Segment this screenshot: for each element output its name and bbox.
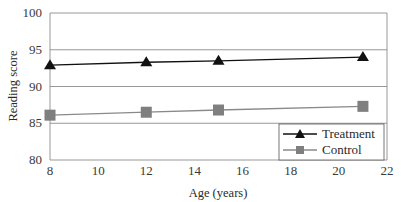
y-axis-ticks: 80859095100 — [23, 5, 43, 167]
square-marker-icon — [357, 101, 368, 112]
y-tick-label: 90 — [29, 79, 42, 94]
legend-label-control: Control — [322, 142, 362, 157]
y-tick-label: 80 — [29, 152, 42, 167]
triangle-marker-icon — [44, 59, 56, 69]
x-tick-label: 20 — [332, 163, 345, 178]
x-tick-label: 14 — [188, 163, 202, 178]
y-axis-label: Reading score — [6, 50, 20, 122]
triangle-marker-icon — [140, 56, 152, 66]
x-tick-label: 18 — [284, 163, 297, 178]
x-tick-label: 8 — [47, 163, 54, 178]
y-tick-label: 95 — [29, 42, 42, 57]
square-marker-icon — [296, 146, 304, 154]
series-line-treatment — [50, 57, 363, 65]
x-axis-label: Age (years) — [189, 186, 248, 200]
x-tick-label: 16 — [236, 163, 250, 178]
x-tick-label: 10 — [92, 163, 105, 178]
series-group — [44, 51, 369, 121]
x-axis-ticks: 810121416182022 — [47, 163, 394, 178]
y-tick-label: 100 — [23, 5, 43, 20]
square-marker-icon — [45, 110, 56, 121]
line-chart: 80859095100 810121416182022 Reading scor… — [0, 0, 401, 202]
square-marker-icon — [213, 105, 224, 116]
series-line-control — [50, 106, 363, 115]
square-marker-icon — [141, 107, 152, 118]
x-tick-label: 22 — [381, 163, 394, 178]
legend: Treatment Control — [279, 124, 384, 160]
legend-label-treatment: Treatment — [322, 126, 375, 141]
y-tick-label: 85 — [29, 115, 42, 130]
triangle-marker-icon — [357, 51, 369, 61]
x-tick-label: 12 — [140, 163, 153, 178]
triangle-marker-icon — [213, 55, 225, 65]
